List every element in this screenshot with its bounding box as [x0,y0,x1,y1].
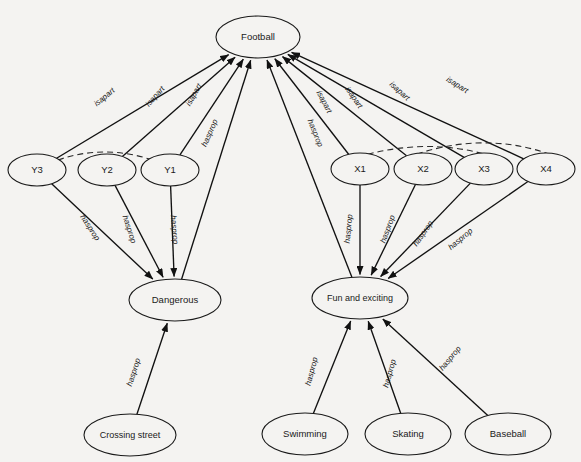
edges-layer [52,52,528,415]
edge-label-dangerous-football: hasprop [200,117,220,148]
node-x3[interactable]: X3 [455,153,513,185]
node-label-x1: X1 [354,163,366,174]
edge-baseball-fun [383,319,488,415]
edge-label-y2-football: isapart [144,84,167,108]
edge-label-fun-football: hasprop [306,118,325,149]
edge-label-crossing-dangerous: hasprop [125,357,143,388]
node-football[interactable]: Football [216,16,300,58]
node-label-dangerous: Dangerous [152,294,199,305]
edge-labels-layer: isapartisapartisaparthasprophaspropisapa… [78,75,474,389]
diagram-canvas: FootballY3Y2Y1X1X2X3X4DangerousFun and e… [0,0,581,462]
edge-label-y2-dangerous: hasprop [121,214,139,245]
node-skating[interactable]: Skating [365,413,451,455]
edge-crossing-dangerous [137,323,167,414]
edge-swimming-fun [313,321,350,413]
node-label-y2: Y2 [101,164,113,175]
node-label-y3: Y3 [31,164,43,175]
edge-y2-dangerous [115,185,163,277]
edge-label-skating-fun: hasprop [381,358,398,389]
node-y1[interactable]: Y1 [141,154,199,186]
concept-graph: FootballY3Y2Y1X1X2X3X4DangerousFun and e… [0,0,581,462]
node-x1[interactable]: X1 [331,153,389,185]
edge-label-swimming-fun: hasprop [303,356,319,387]
node-label-skating: Skating [392,428,424,439]
node-label-swimming: Swimming [283,428,327,439]
edge-x2-fun [371,184,415,275]
edge-label-baseball-fun: hasprop [437,344,463,372]
edge-x2-football [283,57,407,156]
node-y2[interactable]: Y2 [78,154,136,186]
node-swimming[interactable]: Swimming [262,413,348,455]
node-x2[interactable]: X2 [394,153,452,185]
edge-label-y1-dangerous: hasprop [169,215,181,245]
node-label-y1: Y1 [164,164,176,175]
edge-y3-dangerous [52,184,153,279]
node-fun[interactable]: Fun and exciting [312,277,408,319]
edge-label-x1-fun: hasprop [343,213,355,243]
edge-label-x4-fun: hasprop [446,226,474,252]
edge-label-x4-football: isapart [445,75,471,96]
edge-label-x1-football: isapart [315,89,335,115]
edge-label-x3-fun: hasprop [411,219,435,248]
node-y3[interactable]: Y3 [8,154,66,186]
node-label-x4: X4 [540,163,552,174]
node-label-fun: Fun and exciting [327,293,393,303]
node-label-football: Football [241,31,275,42]
node-label-x2: X2 [417,163,429,174]
node-x4[interactable]: X4 [517,153,575,185]
node-crossing-street[interactable]: Crossing street [84,414,176,456]
node-label-crossing-street: Crossing street [100,430,161,440]
node-dangerous[interactable]: Dangerous [129,279,221,321]
edge-label-x3-football: isapart [388,80,412,103]
edge-label-y3-football: isapart [92,86,117,109]
node-baseball[interactable]: Baseball [465,413,551,455]
edge-y2-football [122,57,235,156]
node-label-x3: X3 [478,163,490,174]
edge-label-y1-football: isapart [184,81,204,107]
node-label-baseball: Baseball [490,428,526,439]
